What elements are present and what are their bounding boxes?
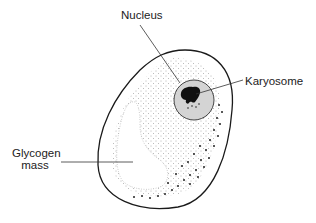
nucleus	[174, 80, 214, 120]
glycogen-mass-label: Glycogen mass	[12, 147, 58, 171]
karyosome-label: Karyosome	[245, 75, 303, 87]
glycogen-label-line2: mass	[12, 159, 58, 171]
glycogen-label-line1: Glycogen	[12, 147, 58, 159]
cell-diagram	[0, 0, 316, 223]
cell-body	[98, 50, 233, 208]
nucleus-label: Nucleus	[121, 9, 163, 21]
